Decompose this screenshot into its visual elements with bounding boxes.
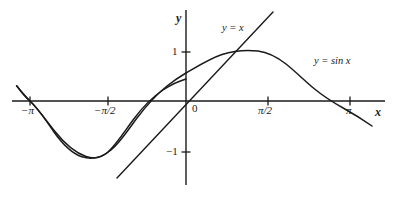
x-tick-label-pi: π — [346, 105, 352, 116]
sine-curve-label: y = sin x — [314, 56, 351, 67]
x-tick-label-neg-half-pi: −π/2 — [94, 105, 116, 116]
x-axis-label: x — [375, 106, 381, 118]
identity-line-label: y = x — [222, 23, 244, 34]
y-tick-label-neg-one: −1 — [166, 146, 178, 157]
sine-and-identity-graph-figure: y x 0 −π −π/2 π/2 π 1 −1 y = x y = sin x — [0, 0, 402, 197]
x-tick-label-half-pi: π/2 — [258, 105, 272, 116]
plot-canvas — [0, 0, 402, 197]
y-tick-label-one: 1 — [172, 46, 178, 57]
origin-label: 0 — [192, 103, 198, 114]
x-tick-label-neg-pi: −π — [21, 105, 34, 116]
identity-line-curve — [117, 12, 273, 178]
y-axis-label: y — [176, 12, 181, 24]
